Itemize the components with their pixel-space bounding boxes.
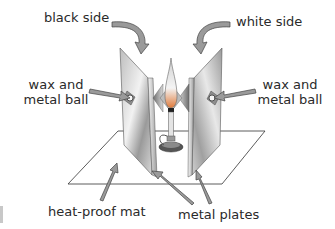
- arrow-white-side: [193, 22, 230, 54]
- label-wax-left-1: wax and: [24, 77, 88, 92]
- heat-proof-mat: [68, 131, 265, 184]
- diagram-illustration: [0, 0, 335, 229]
- label-wax-right-2: metal ball: [256, 92, 324, 107]
- label-heat-proof-mat: heat-proof mat: [48, 204, 146, 219]
- label-wax-right-1: wax and: [258, 77, 322, 92]
- flame-icon: [165, 58, 177, 108]
- label-wax-left-2: metal ball: [22, 92, 90, 107]
- label-metal-plates: metal plates: [178, 207, 259, 222]
- label-white-side: white side: [236, 14, 302, 29]
- margin-bar: [0, 206, 3, 223]
- radiation-experiment-diagram: black side white side wax and metal ball…: [0, 0, 335, 229]
- arrow-black-side: [112, 22, 149, 54]
- label-black-side: black side: [44, 10, 109, 25]
